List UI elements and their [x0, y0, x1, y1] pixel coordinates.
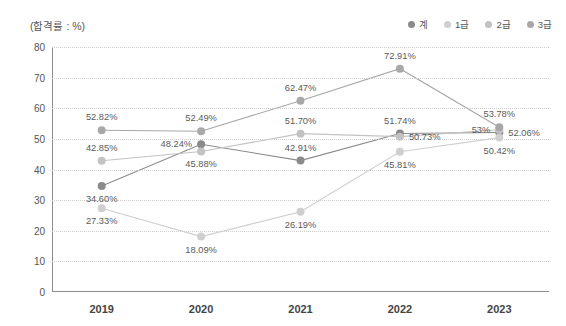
gridline [52, 78, 549, 79]
data-point-marker[interactable] [197, 233, 205, 241]
y-axis-tick-label: 40 [34, 164, 45, 175]
gridline [52, 170, 549, 171]
unit-label: (합격률 : %) [30, 18, 85, 33]
legend-label: 3급 [538, 17, 552, 31]
legend-marker-icon [444, 21, 451, 28]
y-axis-tick-label: 10 [34, 256, 45, 267]
data-point-marker[interactable] [98, 204, 106, 212]
gridline [52, 108, 549, 109]
legend-item-1급[interactable]: 1급 [444, 17, 469, 31]
data-point-marker[interactable] [495, 134, 503, 142]
legend-item-계[interactable]: 계 [408, 17, 428, 31]
data-point-marker[interactable] [197, 140, 205, 148]
chart-container: (합격률 : %) 계1급2급3급 0102030405060708020192… [0, 0, 566, 326]
legend-marker-icon [527, 21, 534, 28]
data-point-marker[interactable] [197, 127, 205, 135]
x-axis-tick-label: 2020 [189, 303, 213, 315]
data-point-marker[interactable] [297, 157, 305, 165]
y-axis-tick-label: 80 [34, 42, 45, 53]
chart-legend: 계1급2급3급 [408, 17, 552, 31]
data-point-marker[interactable] [297, 97, 305, 105]
data-point-marker[interactable] [98, 157, 106, 165]
x-axis-tick-label: 2023 [487, 303, 511, 315]
series-line-1급 [102, 138, 500, 237]
legend-marker-icon [485, 21, 492, 28]
y-axis-tick-label: 70 [34, 72, 45, 83]
data-point-marker[interactable] [396, 65, 404, 73]
data-point-marker[interactable] [495, 123, 503, 131]
data-point-marker[interactable] [396, 148, 404, 156]
y-axis-tick-label: 20 [34, 225, 45, 236]
gridline [52, 261, 549, 262]
data-point-marker[interactable] [297, 208, 305, 216]
data-point-marker[interactable] [98, 182, 106, 190]
y-axis-tick-label: 60 [34, 103, 45, 114]
data-point-marker[interactable] [197, 147, 205, 155]
data-point-marker[interactable] [297, 130, 305, 138]
x-axis-tick-label: 2019 [89, 303, 113, 315]
x-axis-tick-label: 2022 [388, 303, 412, 315]
legend-item-2급[interactable]: 2급 [485, 17, 510, 31]
gridline [52, 47, 549, 48]
legend-label: 계 [419, 17, 428, 31]
legend-label: 2급 [496, 17, 510, 31]
plot-area: 010203040506070802019202020212022202334.… [52, 47, 549, 292]
legend-marker-icon [408, 21, 415, 28]
gridline [52, 200, 549, 201]
y-axis-tick-label: 50 [34, 133, 45, 144]
y-axis-tick-label: 30 [34, 195, 45, 206]
legend-item-3급[interactable]: 3급 [527, 17, 552, 31]
y-axis-tick-label: 0 [39, 287, 45, 298]
x-axis-tick-label: 2021 [288, 303, 312, 315]
gridline [52, 139, 549, 140]
legend-label: 1급 [455, 17, 469, 31]
gridline [52, 231, 549, 232]
data-point-marker[interactable] [98, 126, 106, 134]
